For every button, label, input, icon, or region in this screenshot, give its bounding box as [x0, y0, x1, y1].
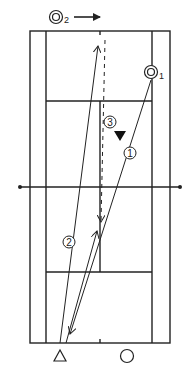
shot-label-3-text: 3	[107, 117, 113, 128]
net-post-left	[18, 185, 22, 189]
net-post-right	[178, 185, 182, 189]
shot-paths	[60, 40, 151, 343]
tennis-drill-diagram: 1 2 1 2 3	[0, 0, 190, 387]
player-2: 2	[50, 11, 70, 26]
shot-label-3: 3	[104, 116, 116, 128]
player-1: 1	[145, 66, 165, 82]
shot-3-dashed-path	[101, 40, 105, 222]
player-1-label: 1	[159, 71, 164, 81]
shot-label-1: 1	[124, 147, 136, 159]
shot-label-2-text: 2	[66, 237, 72, 248]
shot-label-2: 2	[63, 236, 75, 248]
player-1-outer-circle-icon	[145, 66, 158, 79]
player-2-label: 2	[64, 15, 69, 25]
target-circle-icon	[121, 350, 134, 363]
feeder-triangle-icon	[54, 350, 66, 361]
shot-2-path	[60, 46, 98, 343]
player-2-outer-circle-icon	[50, 11, 63, 24]
cone-down-triangle-icon	[114, 131, 126, 141]
shot-label-1-text: 1	[127, 148, 133, 159]
